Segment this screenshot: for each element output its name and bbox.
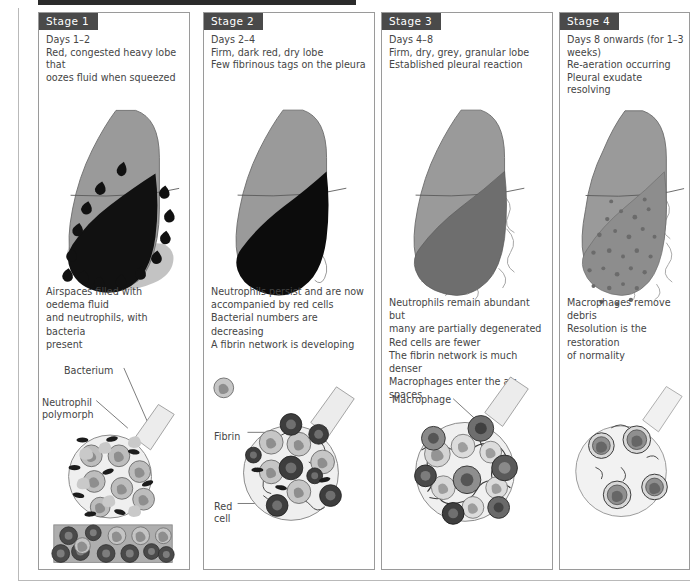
label-bacterium: Bacterium bbox=[64, 365, 113, 377]
stage-tag-2: Stage 2 bbox=[204, 13, 263, 30]
free-neutrophil-top bbox=[214, 378, 234, 398]
neutrophils-group bbox=[80, 445, 154, 517]
dense-fibrin-network bbox=[420, 428, 511, 512]
stage-description-1: Days 1–2 Red, congested heavy lobe that … bbox=[46, 34, 184, 84]
bronchiole-stem bbox=[135, 404, 174, 449]
stage-tag-3: Stage 3 bbox=[382, 13, 441, 30]
leader-line-macrophage bbox=[453, 399, 477, 421]
fibrin-strands bbox=[255, 433, 325, 510]
stage-panel-3: Stage 3 Days 4–8 Firm, dry, grey, granul… bbox=[381, 12, 553, 570]
lung-consolidated-area bbox=[68, 174, 157, 293]
stage-mid-text-2: Neutrophils persist and are now accompan… bbox=[211, 285, 369, 351]
label-neutrophil-polymorph: Neutrophil polymorph bbox=[42, 397, 94, 421]
stage-panel-4: Stage 4 Days 8 onwards (for 1–3 weeks) R… bbox=[559, 12, 690, 570]
residual-fibrin-wisps bbox=[595, 425, 658, 481]
bacteria-group bbox=[69, 435, 154, 517]
re-aeration-speckles bbox=[587, 197, 656, 305]
oedema-fluid-droplets bbox=[62, 162, 174, 290]
degenerated-neutrophils-group bbox=[425, 434, 508, 518]
frame-left-edge bbox=[18, 8, 19, 580]
capillary-strip bbox=[54, 525, 172, 563]
label-macrophage: Macrophage bbox=[392, 394, 451, 406]
top-rule bbox=[38, 0, 356, 5]
stage-panel-1: Stage 1 Days 1–2 Red, congested heavy lo… bbox=[38, 12, 190, 570]
lung-oozing-fluid-halo bbox=[67, 238, 173, 291]
bacteria-group bbox=[251, 468, 330, 492]
alveolus-body bbox=[244, 425, 339, 520]
stage-mid-text-3: Neutrophils remain abundant but many are… bbox=[389, 296, 547, 402]
lung-grey-consolidation bbox=[414, 171, 506, 295]
stage-panel-2: Stage 2 Days 2–4 Firm, dark red, dry lob… bbox=[203, 12, 375, 570]
stage-description-3: Days 4–8 Firm, dry, grey, granular lobe … bbox=[389, 34, 547, 72]
label-red-cell: Red cell bbox=[214, 501, 232, 525]
stage-description-4: Days 8 onwards (for 1–3 weeks) Re-aerati… bbox=[567, 34, 684, 97]
bronchiole-stem bbox=[311, 387, 354, 436]
lung-re-aeration-area bbox=[582, 172, 666, 296]
macrophages-group bbox=[589, 426, 668, 509]
lung-lobe-outline bbox=[236, 110, 346, 291]
lung-consolidated-area bbox=[236, 171, 328, 295]
stage-mid-text-1: Airspaces filled with oedema fluid and n… bbox=[46, 285, 184, 351]
stage-tag-4: Stage 4 bbox=[560, 13, 619, 30]
capillary-cells bbox=[52, 525, 174, 563]
lung-illustration-3 bbox=[382, 13, 552, 569]
bronchiole-stem bbox=[643, 387, 682, 432]
red-cells-group bbox=[246, 414, 342, 517]
stage-description-2: Days 2–4 Firm, dark red, dry lobe Few fi… bbox=[211, 34, 369, 72]
alveolus-illustration-3 bbox=[382, 13, 552, 569]
pleural-reaction-fringe bbox=[422, 193, 515, 300]
resolving-pleural-exudate bbox=[605, 195, 672, 301]
alveolus-body bbox=[69, 435, 152, 518]
leader-line-bacterium bbox=[124, 368, 156, 440]
oedema-fluid-blobs bbox=[77, 436, 141, 517]
leader-line-neutrophil bbox=[96, 401, 128, 429]
lung-lobe-outline bbox=[582, 111, 684, 291]
frame-bottom-edge bbox=[18, 580, 690, 581]
alveolus-body bbox=[576, 426, 667, 517]
lung-lobe-outline bbox=[69, 110, 179, 291]
neutrophils-group bbox=[259, 430, 334, 503]
stage-tag-1: Stage 1 bbox=[39, 13, 98, 30]
label-fibrin: Fibrin bbox=[214, 431, 240, 443]
figure-page: Stage 1 Days 1–2 Red, congested heavy lo… bbox=[0, 0, 699, 588]
stage-mid-text-4: Macrophages remove debris Resolution is … bbox=[567, 296, 684, 362]
alveolus-body bbox=[416, 422, 515, 521]
macrophages-group bbox=[415, 416, 518, 525]
lung-lobe-outline bbox=[414, 110, 524, 291]
